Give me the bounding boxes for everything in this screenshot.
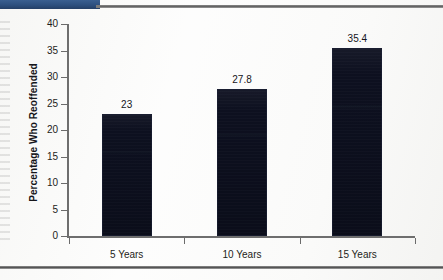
bar [332,48,382,236]
y-axis-tick-label: 20 [36,125,58,135]
y-axis-tick-label: 0 [36,231,58,241]
y-axis-tick [61,236,68,237]
x-axis-category-label: 10 Years [197,249,287,260]
x-axis-tick [300,238,301,244]
top-banner-fill [0,0,100,9]
bar-value-label: 27.8 [202,74,282,85]
bar [217,89,267,236]
y-axis-tick-label: 35 [36,46,58,56]
y-axis-tick [61,130,68,131]
bar-chart: Percentage Who Reoffended 05101520253035… [0,9,443,261]
y-axis-tick-label: 25 [36,99,58,109]
y-axis-tick [61,183,68,184]
chart-page: Percentage Who Reoffended 05101520253035… [0,0,443,280]
y-axis-tick-label: 10 [36,178,58,188]
y-axis-tick [61,210,68,211]
bar [102,114,152,236]
y-axis-tick-label: 30 [36,72,58,82]
y-axis-tick-label: 40 [36,19,58,29]
y-axis-tick [61,104,68,105]
x-axis-tick [184,238,185,244]
y-axis-tick [61,24,68,25]
y-axis-line [67,24,69,238]
y-axis-tick-label: 5 [36,205,58,215]
bar-value-label: 23 [87,99,167,110]
y-axis-tick [61,51,68,52]
x-axis-line [67,236,415,238]
x-axis-category-label: 5 Years [82,249,172,260]
bottom-horizontal-rule [0,266,443,269]
top-horizontal-rule [100,5,443,8]
y-axis-tick-label: 15 [36,152,58,162]
x-axis-category-label: 15 Years [312,249,402,260]
y-axis-tick [61,157,68,158]
top-banner [0,0,100,9]
x-axis-tick [415,238,416,244]
y-axis-tick [61,77,68,78]
bar-value-label: 35.4 [317,33,397,44]
x-axis-tick [69,238,70,244]
